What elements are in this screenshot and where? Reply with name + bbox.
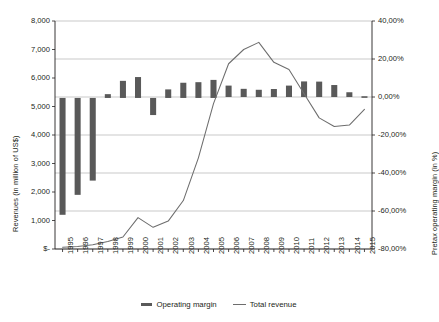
x-axis-tick-label: 1997 — [96, 237, 105, 254]
x-axis-tick-label: 2015 — [368, 237, 377, 254]
y-axis-right-tick-label: -80,00% — [378, 244, 422, 253]
x-axis-tick-label: 2014 — [353, 237, 362, 254]
x-axis-tick-label: 1999 — [126, 237, 135, 254]
x-axis-tick-label: 2006 — [232, 237, 241, 254]
bar-operating-margin — [165, 89, 171, 98]
legend-line-swatch-icon — [233, 304, 246, 305]
y-axis-left-tick-label: 4,000 — [14, 130, 50, 139]
bar-operating-margin — [271, 89, 277, 97]
legend-item-operating-margin: Operating margin — [141, 300, 216, 309]
x-axis-tick-label: 2002 — [171, 237, 180, 254]
bar-operating-margin — [180, 83, 186, 98]
x-axis-tick-label: 2004 — [202, 237, 211, 254]
bar-operating-margin — [331, 85, 337, 97]
bar-operating-margin — [60, 98, 66, 215]
y-axis-left-tick-label: 7,000 — [14, 45, 50, 54]
bar-operating-margin — [150, 98, 156, 115]
chart-legend: Operating margin Total revenue — [0, 300, 438, 309]
y-axis-right-tick-label: -20,00% — [378, 130, 422, 139]
x-axis-tick-label: 1995 — [66, 237, 75, 254]
y-axis-left-tick-label: 6,000 — [14, 73, 50, 82]
bar-operating-margin — [361, 96, 367, 98]
y-axis-right-tick-label: -40,00% — [378, 168, 422, 177]
x-axis-tick-label: 2007 — [247, 237, 256, 254]
bar-operating-margin — [286, 86, 292, 97]
y-axis-left-tick-label: 5,000 — [14, 102, 50, 111]
legend-label-operating-margin: Operating margin — [156, 300, 216, 309]
y-axis-left-tick-label: $- — [14, 244, 50, 253]
legend-label-total-revenue: Total revenue — [250, 300, 297, 309]
y-axis-left-tick-label: 8,000 — [14, 16, 50, 25]
y-axis-left-tick-label: 3,000 — [14, 159, 50, 168]
legend-bar-swatch-icon — [141, 303, 152, 307]
bar-operating-margin — [316, 82, 322, 97]
x-axis-tick-label: 2005 — [217, 237, 226, 254]
line-total-revenue — [63, 42, 365, 247]
y-axis-left-tick-label: 2,000 — [14, 187, 50, 196]
bar-operating-margin — [135, 77, 141, 98]
bar-operating-margin — [105, 94, 111, 98]
x-axis-tick-label: 2008 — [262, 237, 271, 254]
bar-operating-margin — [75, 98, 81, 195]
bar-operating-margin — [226, 86, 232, 97]
y-axis-left-tick-label: 1,000 — [14, 216, 50, 225]
x-axis-tick-label: 2000 — [141, 237, 150, 254]
bar-operating-margin — [210, 80, 216, 98]
y-axis-right-tick-label: 20,00% — [378, 54, 422, 63]
x-axis-tick-label: 2013 — [337, 237, 346, 254]
bar-operating-margin — [241, 89, 247, 97]
x-axis-tick-label: 2003 — [187, 237, 196, 254]
x-axis-tick-label: 1998 — [111, 237, 120, 254]
bar-operating-margin — [195, 82, 201, 98]
bar-operating-margin — [90, 98, 96, 181]
y-axis-right-title: Pretax operating margin (in %) — [430, 152, 439, 255]
x-axis-tick-label: 2010 — [292, 237, 301, 254]
bar-operating-margin — [256, 90, 262, 97]
x-axis-tick-label: 2012 — [322, 237, 331, 254]
x-axis-tick-label: 2001 — [156, 237, 165, 254]
y-axis-right-tick-label: -60,00% — [378, 206, 422, 215]
legend-item-total-revenue: Total revenue — [233, 300, 297, 309]
bar-operating-margin — [120, 81, 126, 98]
y-axis-right-tick-label: 0,00% — [378, 92, 422, 101]
x-axis-tick-label: 2011 — [307, 238, 316, 254]
x-axis-tick-label: 1996 — [81, 237, 90, 254]
bar-operating-margin — [346, 92, 352, 97]
x-axis-tick-label: 2009 — [277, 237, 286, 254]
y-axis-right-tick-label: 40,00% — [378, 16, 422, 25]
